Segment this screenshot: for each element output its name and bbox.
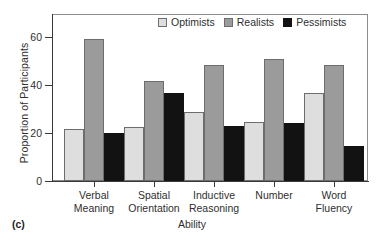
y-tick-mark-40 [45,85,52,86]
x-tick-label-line2: Fluency [286,202,382,215]
bar-number-realists [264,59,284,181]
legend-label-optimists: Optimists [171,16,215,28]
legend-label-realists: Realists [237,16,274,28]
x-tick-label-word-fluency: Word Fluency [286,189,382,214]
bar-inductive-reasoning-pessimists [224,126,244,181]
y-tick-label-60: 60 [20,32,42,42]
bar-spatial-orientation-realists [144,81,164,181]
x-tick-mark-spatial-orientation [154,182,155,187]
y-tick-label-40: 40 [20,80,42,90]
x-tick-label-line1: Word [286,189,382,202]
bar-verbal-meaning-optimists [64,129,84,181]
legend-entry-realists: Realists [224,16,274,28]
y-tick-mark-0 [45,181,52,182]
chart-legend: Optimists Realists Pessimists [158,16,346,28]
legend-swatch-optimists-icon [158,18,167,27]
y-axis-title: Proportion of Participants [18,18,30,188]
y-tick-mark-20 [45,133,52,134]
legend-label-pessimists: Pessimists [296,16,346,28]
x-axis-line [52,181,369,182]
legend-entry-optimists: Optimists [158,16,215,28]
legend-swatch-realists-icon [224,18,233,27]
x-tick-label-line2: Reasoning [166,202,262,215]
bar-spatial-orientation-optimists [124,127,144,181]
bar-inductive-reasoning-realists [204,65,224,181]
y-tick-label-0: 0 [20,176,42,186]
bar-number-pessimists [284,123,304,181]
y-axis-line [52,14,53,182]
bar-word-fluency-pessimists [344,146,364,181]
x-axis-title: Ability [0,218,384,230]
bar-chart-figure: Proportion of Participants 0 20 40 60 Ve… [0,0,384,242]
bar-number-optimists [244,122,264,181]
bar-inductive-reasoning-optimists [184,112,204,181]
bar-word-fluency-optimists [304,93,324,181]
x-tick-mark-word-fluency [334,182,335,187]
bar-spatial-orientation-pessimists [164,93,184,181]
x-tick-mark-verbal-meaning [94,182,95,187]
legend-swatch-pessimists-icon [283,18,292,27]
y-tick-mark-60 [45,37,52,38]
bar-verbal-meaning-pessimists [104,133,124,181]
bar-word-fluency-realists [324,65,344,181]
x-tick-mark-inductive-reasoning [214,182,215,187]
bar-verbal-meaning-realists [84,39,104,181]
x-tick-mark-number [274,182,275,187]
legend-entry-pessimists: Pessimists [283,16,346,28]
y-tick-label-20: 20 [20,128,42,138]
